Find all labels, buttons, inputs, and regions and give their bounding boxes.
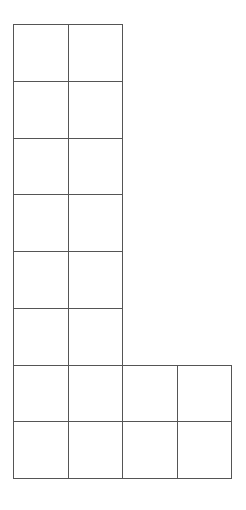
grid-cell — [68, 194, 123, 252]
grid-cell — [68, 138, 123, 195]
grid-cell — [13, 138, 69, 195]
grid-cell — [68, 365, 123, 422]
grid-cell — [68, 308, 123, 366]
grid-cell — [13, 365, 69, 422]
grid-cell — [68, 24, 123, 82]
grid-cell — [13, 421, 69, 479]
grid-cell — [68, 81, 123, 139]
grid-cell — [177, 365, 232, 422]
grid-cell — [13, 251, 69, 309]
grid-cell — [122, 365, 178, 422]
grid-cell — [13, 81, 69, 139]
grid-cell — [13, 24, 69, 82]
grid-cell — [177, 421, 232, 479]
grid-cell — [122, 421, 178, 479]
grid-cell — [68, 251, 123, 309]
l-shaped-grid — [0, 0, 246, 510]
grid-cell — [13, 308, 69, 366]
grid-cell — [13, 194, 69, 252]
grid-cell — [68, 421, 123, 479]
